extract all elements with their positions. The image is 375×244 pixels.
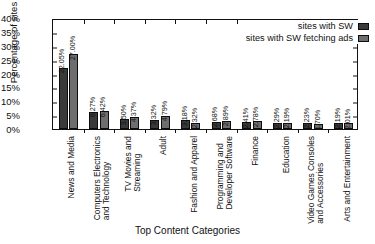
- bar-value-label: 2.89%: [222, 106, 229, 126]
- bar-value-label: 2.23%: [303, 108, 310, 128]
- bar-value-label: 2.68%: [211, 107, 218, 127]
- x-tick-mark: [175, 129, 176, 133]
- x-tick-mark-top: [84, 20, 85, 24]
- y-tick-mark: [53, 89, 57, 90]
- legend-label-series-0: sites with SW: [298, 21, 353, 31]
- bar-value-label: 4.37%: [130, 102, 137, 122]
- x-tick-mark-top: [175, 20, 176, 24]
- bar-value-label: 2.32%: [191, 108, 198, 128]
- category-label-line: Adult: [159, 136, 168, 155]
- x-tick-mark: [114, 129, 115, 133]
- x-tick-mark: [237, 129, 238, 133]
- y-tick-mark: [353, 75, 357, 76]
- x-tick-mark: [267, 129, 268, 133]
- y-tick-label: 0%: [0, 125, 20, 135]
- x-tick-mark: [206, 129, 207, 133]
- y-tick-mark: [53, 47, 57, 48]
- category-label-line: Finance: [251, 136, 260, 166]
- legend-swatch-series-0: [358, 23, 369, 30]
- y-tick-label: 15%: [0, 84, 20, 94]
- category-label: Programming andDeveloper Software: [216, 136, 235, 210]
- x-tick-mark-top: [145, 20, 146, 24]
- category-label: TV Movies andStreaming: [124, 136, 143, 192]
- y-tick-mark: [353, 117, 357, 118]
- bar-value-label: 4.79%: [160, 101, 167, 121]
- y-tick-mark: [53, 117, 57, 118]
- legend: sites with SW sites with SW fetching ads: [243, 20, 371, 44]
- x-tick-mark-top: [114, 20, 115, 24]
- bar-value-label: 2.01%: [344, 109, 351, 129]
- category-label: Computers Electronicsand Technology: [93, 136, 112, 220]
- category-label: Arts and Entertainment: [343, 136, 352, 222]
- bar: [69, 54, 78, 129]
- legend-swatch-series-1: [358, 35, 369, 42]
- category-label-line: and Technology: [103, 136, 112, 220]
- x-tick-mark: [298, 129, 299, 133]
- category-label-line: Arts and Entertainment: [343, 136, 352, 222]
- bar-value-label: 3.32%: [150, 105, 157, 125]
- bar-value-label: 27.00%: [69, 35, 76, 59]
- bar-value-label: 2.19%: [283, 108, 290, 128]
- category-label-line: Streaming: [133, 136, 142, 192]
- category-label: News and Media: [67, 136, 76, 198]
- y-tick-label: 30%: [0, 42, 20, 52]
- bar-value-label: 2.41%: [242, 108, 249, 128]
- category-label-line: Education: [282, 136, 291, 173]
- bar-chart: Percentage of sites 0%5%10%15%20%25%30%3…: [0, 0, 375, 244]
- x-tick-mark-top: [237, 20, 238, 24]
- legend-item-sites-with-sw: sites with SW: [298, 21, 369, 31]
- category-label: Education: [282, 136, 291, 173]
- bar-value-label: 6.27%: [89, 97, 96, 117]
- y-tick-mark: [53, 75, 57, 76]
- y-tick-label: 35%: [0, 28, 20, 38]
- category-label: Fashion and Apparel: [190, 136, 199, 213]
- category-label-line: Developer Software: [225, 136, 234, 210]
- category-label-line: and Accessories: [317, 136, 326, 224]
- legend-label-series-1: sites with SW fetching ads: [246, 33, 353, 43]
- bar-value-label: 2.19%: [334, 108, 341, 128]
- y-tick-mark: [353, 61, 357, 62]
- y-tick-mark: [53, 103, 57, 104]
- bar-value-label: 2.29%: [272, 108, 279, 128]
- bar-value-label: 3.18%: [181, 105, 188, 125]
- x-tick-mark: [328, 129, 329, 133]
- category-label: Adult: [159, 136, 168, 155]
- x-axis-title: Top Content Categories: [0, 225, 375, 236]
- y-tick-label: 5%: [0, 111, 20, 121]
- bar-value-label: 1.70%: [313, 110, 320, 130]
- y-tick-label: 25%: [0, 56, 20, 66]
- bar-value-label: 22.05%: [58, 49, 65, 73]
- bar-value-label: 2.78%: [252, 107, 259, 127]
- y-tick-label: 20%: [0, 70, 20, 80]
- y-tick-mark: [353, 47, 357, 48]
- x-tick-mark-top: [206, 20, 207, 24]
- x-tick-mark: [84, 129, 85, 133]
- y-tick-label: 10%: [0, 98, 20, 108]
- category-label: Video Games Consolesand Accessories: [307, 136, 326, 224]
- y-tick-mark: [353, 89, 357, 90]
- y-tick-mark: [53, 33, 57, 34]
- category-label: Finance: [251, 136, 260, 166]
- x-tick-mark: [145, 129, 146, 133]
- category-label-line: News and Media: [67, 136, 76, 198]
- bar-value-label: 6.42%: [99, 96, 106, 116]
- bar: [59, 68, 68, 129]
- legend-item-sites-with-sw-fetching-ads: sites with SW fetching ads: [246, 33, 369, 43]
- bar-value-label: 3.50%: [119, 105, 126, 125]
- y-tick-label: 40%: [0, 14, 20, 24]
- y-tick-mark: [353, 103, 357, 104]
- category-label-line: Fashion and Apparel: [190, 136, 199, 213]
